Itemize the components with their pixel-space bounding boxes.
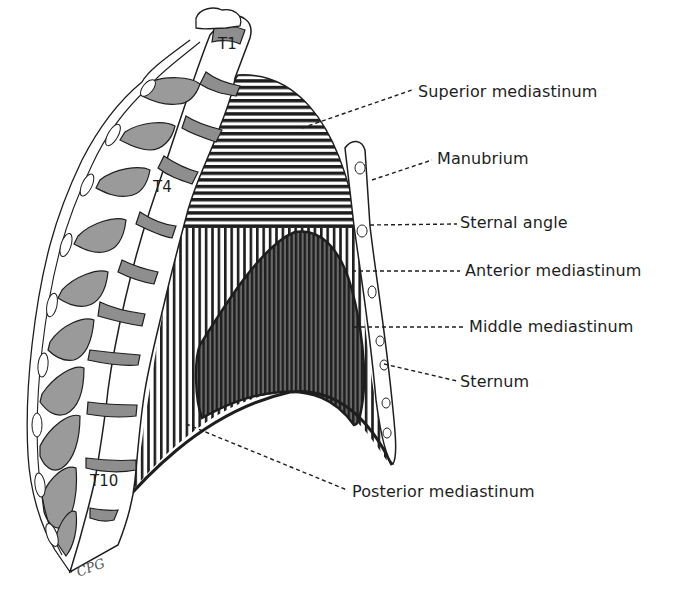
- leader-posterior-mediastinum: [186, 424, 347, 490]
- vertebra-label-t1: T1: [218, 37, 237, 52]
- leader-manubrium: [372, 160, 432, 180]
- vertebra-label-t10: T10: [90, 474, 118, 489]
- label-sternum: Sternum: [460, 374, 529, 390]
- first-rib: [196, 8, 241, 29]
- label-manubrium: Manubrium: [437, 151, 529, 167]
- leader-sternal-angle: [370, 224, 457, 225]
- label-superior-mediastinum: Superior mediastinum: [418, 84, 598, 100]
- label-posterior-mediastinum: Posterior mediastinum: [352, 484, 535, 500]
- leader-sternum: [384, 364, 457, 381]
- leader-superior-mediastinum: [302, 90, 412, 128]
- label-middle-mediastinum: Middle mediastinum: [469, 319, 634, 335]
- label-sternal-angle: Sternal angle: [460, 215, 568, 231]
- vertebra-label-t4: T4: [153, 180, 172, 195]
- label-anterior-mediastinum: Anterior mediastinum: [465, 263, 641, 279]
